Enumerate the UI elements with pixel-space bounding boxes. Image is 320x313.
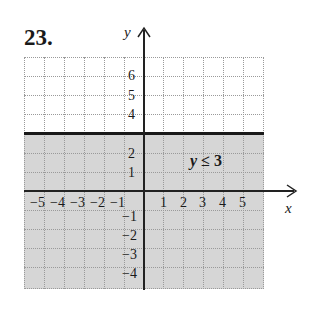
- x-tick-neg1: −1: [110, 196, 125, 210]
- problem-number: 23.: [24, 25, 53, 51]
- y-tick-1: 1: [128, 166, 135, 180]
- inequality-annotation: y ≤ 3: [190, 152, 222, 170]
- y-tick-neg3: −3: [122, 248, 137, 262]
- x-tick-2: 2: [180, 196, 187, 210]
- inequality-relation: ≤ 3: [197, 152, 222, 169]
- x-tick-3: 3: [199, 196, 206, 210]
- y-tick-neg4: −4: [122, 267, 137, 281]
- y-tick-5: 5: [128, 89, 135, 103]
- x-tick-5: 5: [239, 196, 246, 210]
- x-tick-neg5: −5: [30, 196, 45, 210]
- x-tick-neg2: −2: [90, 196, 105, 210]
- y-axis-label: y: [124, 24, 131, 41]
- y-tick-4: 4: [128, 108, 135, 122]
- x-tick-neg3: −3: [70, 196, 85, 210]
- y-tick-neg1: −1: [122, 210, 137, 224]
- y-tick-2: 2: [128, 147, 135, 161]
- y-axis-arrow-icon: [137, 26, 151, 38]
- x-tick-4: 4: [219, 196, 226, 210]
- x-axis-label: x: [285, 200, 292, 217]
- y-tick-6: 6: [128, 69, 135, 83]
- y-tick-neg2: −2: [122, 229, 137, 243]
- y-axis: [143, 30, 145, 290]
- x-tick-1: 1: [160, 196, 167, 210]
- x-tick-neg4: −4: [50, 196, 65, 210]
- x-axis-arrow-icon: [286, 184, 298, 198]
- x-axis: [24, 190, 294, 192]
